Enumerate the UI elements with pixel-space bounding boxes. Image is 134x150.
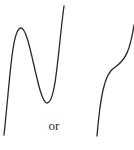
cubic-curve-inflection — [97, 25, 134, 136]
cubic-curve-two-turning-points — [4, 6, 64, 135]
or-label: or — [44, 119, 64, 133]
diagram-canvas — [0, 0, 134, 150]
